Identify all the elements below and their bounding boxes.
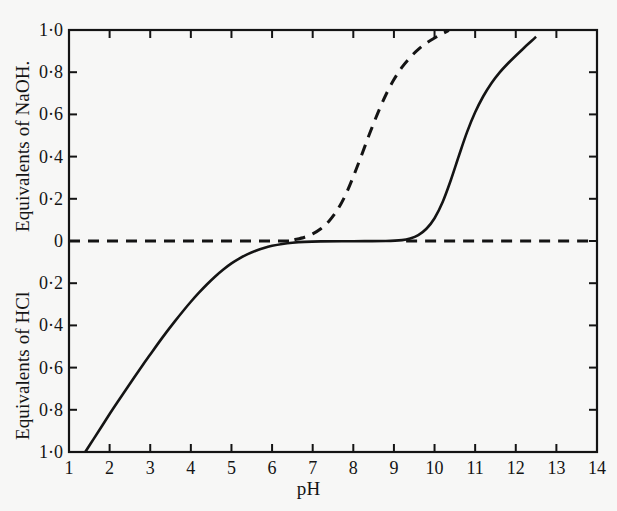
y-tick-label-naoh: 0·8 — [17, 62, 63, 83]
y-tick-label-naoh: 0·4 — [17, 146, 63, 167]
x-axis-title-ph: pH — [0, 478, 617, 500]
x-tick-label: 7 — [308, 458, 317, 479]
x-tick-label: 4 — [186, 458, 195, 479]
x-tick-label: 5 — [227, 458, 236, 479]
y-tick-label-hcl: 0·8 — [17, 399, 63, 420]
x-tick-label: 3 — [146, 458, 155, 479]
y-tick-label-naoh: 0·2 — [17, 188, 63, 209]
x-tick-label: 2 — [105, 458, 114, 479]
solid-titration-curve — [85, 37, 536, 452]
x-tick-label: 6 — [268, 458, 277, 479]
y-tick-label-naoh: 0 — [17, 231, 63, 252]
y-tick-label-naoh: 1·0 — [17, 20, 63, 41]
x-tick-label: 14 — [588, 458, 606, 479]
y-tick-label-hcl: 0·4 — [17, 315, 63, 336]
y-tick-label-hcl: 1·0 — [17, 442, 63, 463]
dashed-curve-rise — [294, 30, 448, 239]
x-tick-label: 8 — [349, 458, 358, 479]
x-tick-label: 12 — [507, 458, 525, 479]
x-tick-label: 9 — [389, 458, 398, 479]
data-curves — [69, 30, 597, 452]
plot-area — [0, 0, 617, 511]
y-tick-label-hcl: 0·6 — [17, 357, 63, 378]
y-tick-label-hcl: 0·2 — [17, 273, 63, 294]
titration-chart-figure: Equivalents of NaOH. Equivalents of HCl … — [0, 0, 617, 511]
y-tick-label-naoh: 0·6 — [17, 104, 63, 125]
x-tick-label: 11 — [466, 458, 483, 479]
x-tick-label: 10 — [426, 458, 444, 479]
x-tick-label: 13 — [547, 458, 565, 479]
x-tick-label: 1 — [65, 458, 74, 479]
